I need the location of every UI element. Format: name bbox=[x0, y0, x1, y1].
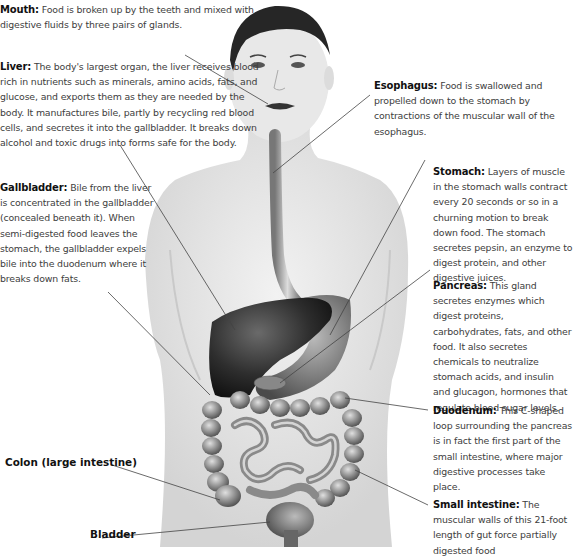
label-small-intestine: Small intestine: The muscular walls of t… bbox=[433, 497, 573, 558]
label-mouth: Mouth: Food is broken up by the teeth an… bbox=[0, 2, 260, 32]
label-duodenum: Duodenum: This C-shaped loop surrounding… bbox=[433, 403, 573, 494]
label-esophagus-title: Esophagus: bbox=[374, 80, 437, 91]
label-pancreas-title: Pancreas: bbox=[433, 280, 487, 291]
label-duodenum-title: Duodenum: bbox=[433, 405, 497, 416]
label-stomach-text: Layers of muscle in the stomach walls co… bbox=[433, 166, 572, 283]
label-colon: Colon (large intestine) bbox=[5, 456, 137, 468]
label-liver: Liver: The body's largest organ, the liv… bbox=[0, 59, 260, 150]
label-liver-title: Liver: bbox=[0, 61, 31, 72]
label-pancreas: Pancreas: This gland secretes enzymes wh… bbox=[433, 278, 573, 415]
label-pancreas-text: This gland secretes enzymes which digest… bbox=[433, 280, 571, 413]
label-duodenum-text: This C-shaped loop surrounding the pancr… bbox=[433, 405, 572, 492]
label-liver-text: The body's largest organ, the liver rece… bbox=[0, 61, 259, 148]
label-mouth-text: Food is broken up by the teeth and mixed… bbox=[0, 4, 254, 30]
label-stomach-title: Stomach: bbox=[433, 166, 485, 177]
label-gallbladder-text: Bile from the liver is concentrated in t… bbox=[0, 182, 153, 284]
label-stomach: Stomach: Layers of muscle in the stomach… bbox=[433, 164, 573, 286]
label-mouth-title: Mouth: bbox=[0, 4, 39, 15]
label-esophagus: Esophagus: Food is swallowed and propell… bbox=[374, 78, 564, 139]
label-bladder: Bladder bbox=[90, 528, 136, 540]
label-gallbladder-title: Gallbladder: bbox=[0, 182, 67, 193]
label-small-intestine-title: Small intestine: bbox=[433, 499, 519, 510]
label-gallbladder: Gallbladder: Bile from the liver is conc… bbox=[0, 180, 158, 286]
